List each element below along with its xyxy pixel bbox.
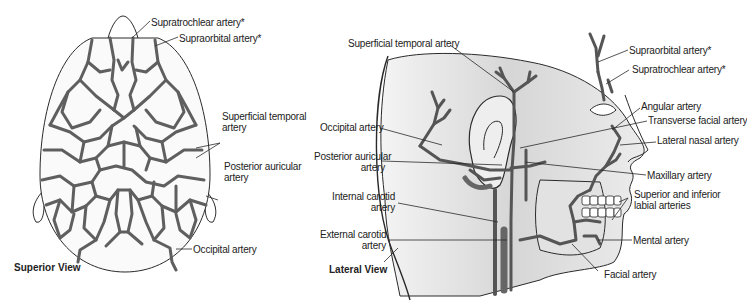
label-line-2: artery <box>224 172 248 183</box>
label-supraorbital-artery-lateral: Supraorbital artery* <box>629 45 711 56</box>
label-superficial-temporal-artery-superior: Superficial temporal artery <box>222 111 306 133</box>
label-posterior-auricular-artery-lateral: Posterior auricular artery <box>314 151 385 173</box>
anatomy-figure: Supratrochlear artery* Supraorbital arte… <box>0 0 747 302</box>
label-transverse-facial-artery: Transverse facial artery <box>648 115 747 126</box>
label-line-1: Superficial temporal <box>222 111 306 122</box>
label-line-1: Posterior auricular <box>224 161 301 172</box>
label-supraorbital-artery-superior: Supraorbital artery* <box>179 33 261 44</box>
label-lateral-nasal-artery: Lateral nasal artery <box>657 135 739 146</box>
label-line-2: artery <box>362 240 386 251</box>
label-line-2: labial arteries <box>634 200 690 211</box>
label-facial-artery: Facial artery <box>604 269 656 280</box>
label-line-1: External carotid <box>320 229 386 240</box>
label-occipital-artery-superior: Occipital artery <box>193 244 257 255</box>
label-angular-artery: Angular artery <box>641 101 701 112</box>
label-line-2: artery <box>371 202 395 213</box>
label-superficial-temporal-artery-lateral: Superficial temporal artery <box>348 38 459 49</box>
label-external-carotid-artery: External carotid artery <box>320 229 386 251</box>
label-maxillary-artery: Maxillary artery <box>647 170 712 181</box>
label-posterior-auricular-artery-superior: Posterior auricular artery <box>224 161 301 183</box>
label-line-1: Posterior auricular <box>314 151 391 162</box>
label-line-2: artery <box>222 122 246 133</box>
lateral-view-caption: Lateral View <box>329 264 387 275</box>
label-occipital-artery-lateral: Occipital artery <box>320 122 384 133</box>
label-line-1: Internal carotid <box>332 191 395 202</box>
superior-view-caption: Superior View <box>14 262 81 273</box>
label-supratrochlear-artery-superior: Supratrochlear artery* <box>151 17 244 28</box>
label-supratrochlear-artery-lateral: Supratrochlear artery* <box>632 64 725 75</box>
label-line-1: Superior and inferior <box>634 189 720 200</box>
label-superior-inferior-labial-arteries: Superior and inferior labial arteries <box>634 189 720 211</box>
label-internal-carotid-artery: Internal carotid artery <box>330 191 395 213</box>
label-mental-artery: Mental artery <box>633 235 689 246</box>
label-line-2: artery <box>361 162 385 173</box>
